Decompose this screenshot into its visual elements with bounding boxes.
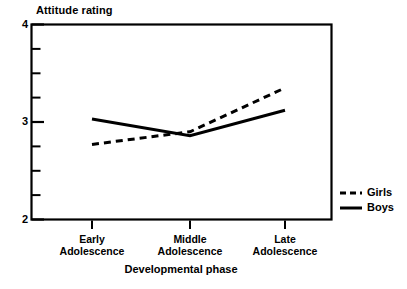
x-tick-label-line1: Early [37, 233, 147, 245]
legend-item-girls: Girls [340, 185, 407, 200]
legend-swatch-dashed-line-icon [340, 188, 362, 198]
x-tick-label-line2: Adolescence [135, 245, 245, 257]
legend-label-boys: Boys [367, 202, 394, 213]
legend-swatch-solid-line-icon [340, 203, 362, 213]
legend-label-girls: Girls [367, 187, 392, 198]
x-axis-title: Developmental phase [31, 263, 331, 275]
attitude-rating-line-chart: Attitude rating 4 3 2 [0, 0, 407, 289]
x-tick-label-early-adolescence: Early Adolescence [37, 233, 147, 257]
x-tick-label-line2: Adolescence [37, 245, 147, 257]
y-axis-major-ticks [32, 25, 45, 220]
legend-item-boys: Boys [340, 200, 407, 215]
legend: Girls Boys [340, 185, 407, 215]
x-tick-label-line2: Adolescence [230, 245, 340, 257]
plot-frame [32, 25, 332, 220]
x-tick-label-line1: Middle [135, 233, 245, 245]
x-axis-ticks [92, 221, 285, 230]
x-tick-label-line1: Late [230, 233, 340, 245]
x-tick-label-middle-adolescence: Middle Adolescence [135, 233, 245, 257]
x-tick-label-late-adolescence: Late Adolescence [230, 233, 340, 257]
